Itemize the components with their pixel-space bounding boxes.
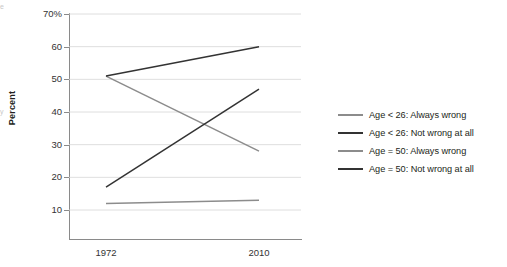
legend-item-label: Age = 50: Always wrong <box>369 146 466 156</box>
plot-svg <box>69 14 301 210</box>
legend-item[interactable]: Age = 50: Always wrong <box>338 142 504 160</box>
y-tick-label: 40 <box>16 106 62 117</box>
legend-item[interactable]: Age < 26: Always wrong <box>338 106 504 124</box>
series-line <box>106 76 259 151</box>
y-tick-label: 70% <box>16 8 62 19</box>
x-tick-label: 2010 <box>229 247 289 258</box>
legend-swatch-icon <box>338 168 363 169</box>
legend-swatch-icon <box>338 150 363 151</box>
legend-item[interactable]: Age < 26: Not wrong at all <box>338 124 504 142</box>
edge-artifact-top: e <box>0 3 7 11</box>
y-tick-mark <box>64 210 69 211</box>
y-tick-label: 30 <box>16 139 62 150</box>
legend-item[interactable]: Age = 50: Not wrong at all <box>338 160 504 178</box>
legend: Age < 26: Always wrongAge < 26: Not wron… <box>338 106 504 178</box>
y-tick-label: 50 <box>16 73 62 84</box>
x-axis-line <box>69 239 302 240</box>
plot-area <box>69 14 301 210</box>
series-line <box>106 89 259 187</box>
series-line <box>106 47 259 76</box>
legend-swatch-icon <box>338 114 363 115</box>
y-tick-label: 10 <box>16 204 62 215</box>
legend-item-label: Age = 50: Not wrong at all <box>369 164 474 174</box>
legend-item-label: Age < 26: Not wrong at all <box>369 128 474 138</box>
y-tick-label: 20 <box>16 171 62 182</box>
legend-swatch-icon <box>338 132 363 133</box>
legend-item-label: Age < 26: Always wrong <box>369 110 466 120</box>
series-line <box>106 200 259 203</box>
gridlines <box>69 14 301 210</box>
edge-artifact-middle: y <box>0 108 7 116</box>
x-tick-label: 1972 <box>76 247 136 258</box>
series-lines <box>106 47 259 204</box>
line-chart-figure: e y Percent 70%605040302010 19722010 Age… <box>0 0 507 267</box>
y-tick-label: 60 <box>16 41 62 52</box>
